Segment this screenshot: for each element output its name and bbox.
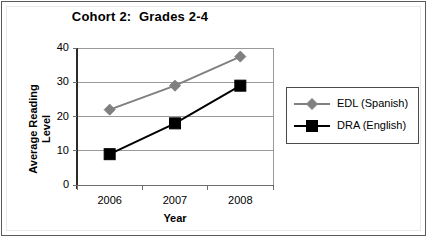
x-tick-label: 2006 [77, 194, 143, 206]
series-lines-group [110, 57, 241, 155]
y-tick-label: 40 [43, 41, 69, 53]
legend-swatches-group [286, 87, 418, 143]
y-tick-label: 20 [43, 110, 69, 122]
data-point-marker [104, 149, 115, 160]
legend-item-label: DRA (English) [337, 119, 406, 131]
data-point-marker [104, 104, 115, 115]
legend-box [286, 87, 418, 143]
gridlines-group [77, 48, 273, 185]
y-tick-label: 0 [43, 178, 69, 190]
data-point-marker [170, 118, 181, 129]
x-tick-label: 2007 [142, 194, 208, 206]
x-tick-label: 2008 [207, 194, 273, 206]
y-tick-label: 30 [43, 75, 69, 87]
chart-figure: Cohort 2: Grades 2-4 Average ReadingLeve… [0, 0, 428, 238]
series-markers-group [104, 51, 246, 160]
legend-item-label: EDL (Spanish) [337, 97, 408, 109]
y-axis-title-line1: Average Reading [27, 84, 39, 173]
y-tick-label: 10 [43, 144, 69, 156]
data-point-marker [235, 80, 246, 91]
x-axis-title: Year [77, 212, 273, 224]
data-point-marker [235, 51, 246, 62]
legend-marker [307, 121, 318, 132]
chart-title: Cohort 2: Grades 2-4 [0, 9, 280, 24]
x-tick-marks-group [77, 185, 273, 190]
